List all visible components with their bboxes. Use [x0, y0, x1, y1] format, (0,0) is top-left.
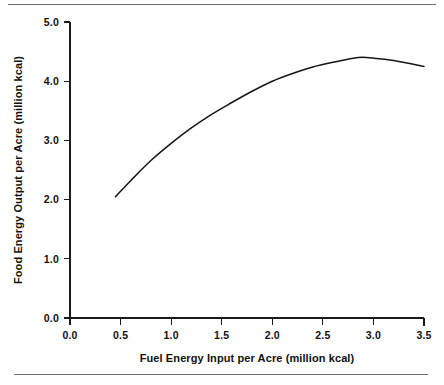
x-axis-tick-label: 3.0: [366, 329, 381, 341]
y-axis-ticks: [64, 22, 70, 318]
y-axis-tick-label: 3.0: [44, 134, 59, 146]
x-axis-tick-labels: 0.00.51.01.52.02.53.03.5: [62, 329, 431, 341]
y-axis-tick-label: 5.0: [44, 16, 59, 28]
y-axis-title: Food Energy Output per Acre (million kca…: [12, 56, 24, 284]
x-axis-tick-label: 2.0: [265, 329, 280, 341]
y-axis-tick-label: 0.0: [44, 312, 59, 324]
axes: [70, 22, 424, 326]
x-axis-tick-label: 0.5: [113, 329, 128, 341]
y-axis-tick-label: 4.0: [44, 75, 59, 87]
x-axis-tick-label: 1.0: [164, 329, 179, 341]
y-axis-tick-labels: 0.01.02.03.04.05.0: [44, 16, 59, 324]
x-axis-tick-label: 0.0: [62, 329, 77, 341]
data-series-line: [116, 57, 424, 196]
x-axis-tick-label: 3.5: [416, 329, 431, 341]
y-axis-tick-label: 1.0: [44, 253, 59, 265]
x-axis-title: Fuel Energy Input per Acre (million kcal…: [140, 352, 355, 364]
figure-container: 0.01.02.03.04.05.0 0.00.51.01.52.02.53.0…: [0, 0, 444, 385]
x-axis-tick-label: 2.5: [315, 329, 330, 341]
line-chart: 0.01.02.03.04.05.0 0.00.51.01.52.02.53.0…: [0, 0, 444, 385]
x-axis-ticks: [70, 318, 424, 325]
y-axis-tick-label: 2.0: [44, 193, 59, 205]
x-axis-tick-label: 1.5: [214, 329, 229, 341]
